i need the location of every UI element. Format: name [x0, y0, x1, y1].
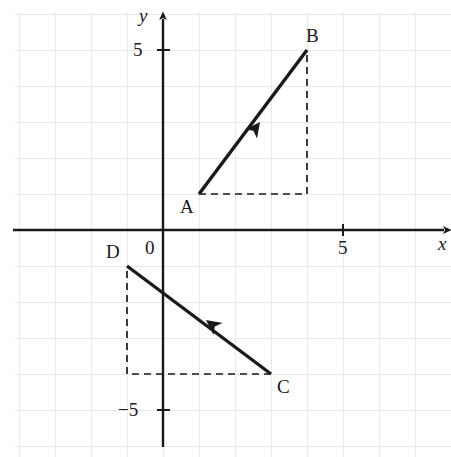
point-label-b: B — [306, 26, 319, 45]
origin-label: 0 — [145, 238, 155, 257]
x-tick-label-5: 5 — [338, 238, 348, 257]
coordinate-plane-figure: y x 0 5 5 −5 A B C D — [0, 0, 451, 457]
graph-canvas — [0, 0, 451, 457]
x-axis-label: x — [438, 234, 446, 253]
y-tick-label-minus-5: −5 — [118, 400, 138, 419]
point-label-c: C — [277, 377, 290, 396]
vector-arrows — [127, 50, 307, 374]
y-axis-label: y — [139, 6, 147, 25]
grid-lines — [15, 13, 451, 457]
y-tick-label-5: 5 — [133, 40, 143, 59]
point-label-a: A — [180, 197, 194, 216]
point-label-d: D — [106, 242, 120, 261]
